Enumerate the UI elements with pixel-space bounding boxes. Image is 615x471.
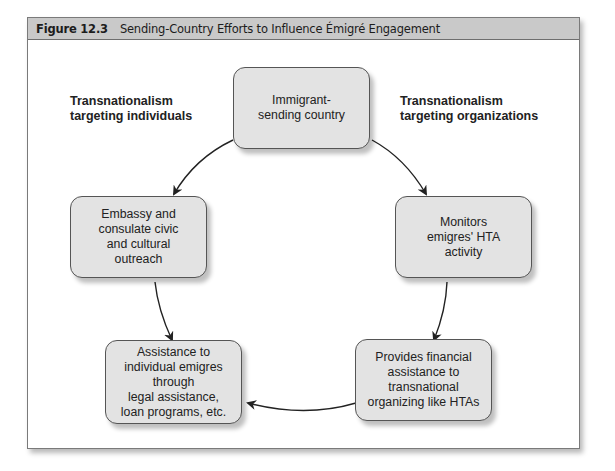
node-monitors-hta: Monitors emigres' HTA activity — [395, 196, 532, 278]
node-embassy-outreach: Embassy and consulate civic and cultural… — [70, 196, 207, 278]
node-label: Monitors emigres' HTA activity — [427, 215, 500, 260]
node-financial-assistance: Provides financial assistance to transna… — [355, 339, 492, 421]
node-label: Assistance to individual emigres through… — [121, 345, 226, 420]
arrow-bottomright-to-bottomleft — [248, 403, 356, 411]
node-label: Provides financial assistance to transna… — [368, 350, 480, 410]
arrow-right-to-bottomright — [434, 282, 447, 340]
label-targeting-individuals: Transnationalism targeting individuals — [70, 94, 192, 124]
node-sending-country: Immigrant- sending country — [233, 67, 370, 149]
node-individual-assistance: Assistance to individual emigres through… — [105, 340, 242, 424]
node-label: Embassy and consulate civic and cultural… — [99, 207, 179, 267]
arrow-top-to-right — [372, 140, 426, 194]
arrow-top-to-left — [174, 140, 233, 194]
label-targeting-organizations: Transnationalism targeting organizations — [400, 94, 538, 124]
node-label: Immigrant- sending country — [258, 93, 345, 123]
arrow-left-to-bottomleft — [155, 282, 172, 340]
